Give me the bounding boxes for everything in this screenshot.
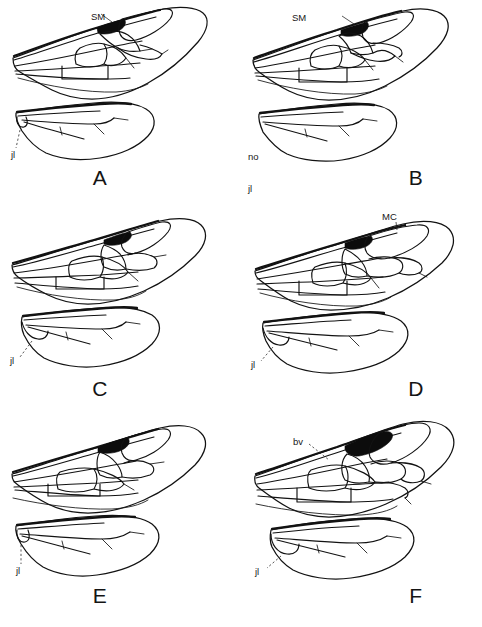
- forewing-costal-vein: [13, 429, 158, 472]
- forewing-veinlet-3: [162, 50, 168, 54]
- forewing-cubital-vein: [257, 482, 389, 490]
- panel-f-drawing: [241, 412, 482, 621]
- hindwing-outline: [259, 103, 397, 161]
- hindwing-veinlet-2: [363, 119, 377, 121]
- forewing-costal-vein: [14, 10, 160, 56]
- forewing-cubital-vein: [14, 272, 138, 278]
- panel-e: jl E: [0, 412, 241, 621]
- forewing-outline: [12, 426, 206, 513]
- jl-leader-line: [16, 130, 20, 148]
- hindwing-veinlet-1: [349, 336, 359, 346]
- forewing-fold-line: [256, 504, 397, 515]
- forewing-outline: [12, 219, 206, 304]
- forewing-media-vein: [257, 258, 381, 279]
- forewing-veinlet-1: [419, 273, 427, 277]
- panel-b: SM no jl B: [241, 0, 482, 209]
- forewing-discoidal-cell-1: [312, 262, 347, 286]
- forewing-subcostal-vein: [13, 229, 154, 267]
- hindwing-subcostal-vein: [18, 111, 100, 116]
- forewing-submarginal-cell-3: [373, 43, 402, 57]
- wing-venation-plate: SM jl A: [0, 0, 482, 627]
- hindwing-costal-vein: [264, 312, 384, 322]
- hindwing-cell-vein: [66, 332, 68, 340]
- hindwing-cell-vein: [60, 127, 62, 135]
- hindwing-veinlet-1: [339, 126, 349, 136]
- hindwing-subcostal-vein: [261, 112, 343, 117]
- panel-d: MC jl D: [241, 205, 482, 414]
- hindwing-veinlet-2: [379, 330, 393, 332]
- forewing-anal-vein: [15, 283, 138, 289]
- pterostigma: [98, 438, 129, 453]
- hindwing-outline: [270, 518, 414, 579]
- hindwing-veinlet-2: [126, 322, 140, 324]
- forewing-veinlet-2: [124, 484, 134, 490]
- sm-label: SM: [91, 12, 105, 22]
- jl-leader-line: [20, 341, 32, 357]
- hindwing-veinlet-1: [102, 539, 112, 549]
- hindwing-veinlet-2: [387, 536, 401, 538]
- forewing-submarginal-cell-2: [118, 45, 162, 59]
- panel-a-drawing: [0, 0, 241, 209]
- hindwing-outline: [21, 307, 159, 367]
- sm-label: SM: [292, 13, 306, 23]
- hindwing-media-vein: [24, 122, 84, 139]
- hindwing-outline: [263, 312, 408, 373]
- hindwing-radial-vein: [267, 330, 379, 336]
- panel-letter-f: F: [396, 584, 436, 608]
- hindwing-veinlet-2: [130, 532, 144, 534]
- forewing-veinlet-1: [140, 49, 152, 51]
- forewing-subcostal-vein: [14, 17, 156, 60]
- panel-f: bv jl F: [241, 412, 482, 621]
- hindwing-outline: [16, 515, 159, 576]
- panel-c: jl C: [0, 205, 241, 414]
- sm-leader-line: [342, 16, 354, 24]
- panel-b-drawing: [241, 0, 482, 209]
- forewing-submarginal-cell-3: [389, 258, 422, 275]
- forewing-veinlet-2: [405, 498, 411, 504]
- forewing-anal-vein: [256, 76, 379, 82]
- panel-d-drawing: [241, 205, 482, 414]
- panel-letter-d: D: [396, 377, 436, 401]
- hindwing-cell-vein: [309, 338, 311, 346]
- hindwing-radial-vein: [263, 119, 363, 126]
- forewing-veinlet-2: [371, 278, 379, 288]
- no-jl-label-line1: no: [248, 152, 264, 163]
- hindwing-subcostal-vein: [24, 315, 106, 320]
- forewing-submarginal-cell-2: [122, 461, 154, 478]
- forewing-veinlet-2: [126, 58, 134, 68]
- forewing-submarginal-cell-2: [126, 253, 157, 270]
- forewing-veinlet-2: [128, 272, 138, 281]
- hindwing-veinlet-2: [114, 118, 128, 120]
- hindwing-radial-vein: [275, 536, 387, 543]
- forewing-subcostal-vein: [254, 19, 397, 62]
- jl-label: jl: [251, 360, 255, 370]
- no-jl-label: no jl: [248, 131, 264, 216]
- forewing-veinlet-1: [150, 462, 164, 464]
- hindwing-cell-vein: [317, 545, 319, 553]
- forewing-marginal-cell: [362, 12, 413, 44]
- hindwing-costal-vein: [23, 307, 137, 316]
- hindwing-radial-vein: [26, 322, 126, 329]
- panel-letter-c: C: [80, 377, 120, 401]
- forewing-anal-vein: [16, 74, 130, 79]
- panel-e-drawing: [0, 412, 241, 621]
- hindwing-cell-vein: [62, 541, 64, 549]
- hindwing-radial-vein: [20, 532, 130, 539]
- forewing-veinlet-1: [154, 255, 166, 257]
- forewing-fold-line: [18, 78, 148, 92]
- jl-label: jl: [10, 356, 14, 366]
- hindwing-veinlet-1: [94, 124, 104, 134]
- jl-label: jl: [16, 566, 20, 576]
- panel-a: SM jl A: [0, 0, 241, 209]
- panel-c-drawing: [0, 205, 241, 414]
- hindwing-veinlet-1: [357, 543, 367, 553]
- panel-letter-a: A: [80, 166, 120, 190]
- hindwing-media-vein: [28, 327, 90, 344]
- forewing-outline: [13, 7, 207, 99]
- forewing-submarginal-cell-3: [391, 463, 424, 483]
- hindwing-radial-vein: [22, 118, 114, 124]
- panel-letter-e: E: [80, 584, 120, 608]
- forewing-discoidal-cell-1: [75, 43, 107, 67]
- panel-letter-b: B: [396, 166, 436, 190]
- no-jl-label-line2: jl: [248, 184, 264, 195]
